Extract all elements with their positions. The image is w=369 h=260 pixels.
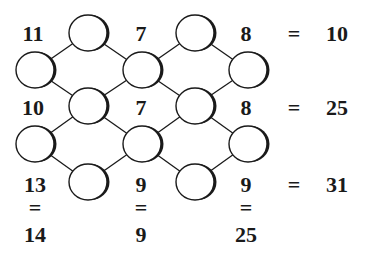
row2-mid-clue: 7 xyxy=(136,97,147,119)
answer-circle-r4c1[interactable] xyxy=(16,126,57,162)
row3-left-clue: 13 xyxy=(24,174,46,196)
row1-right-clue: 8 xyxy=(241,23,252,45)
row1-mid-clue: 7 xyxy=(136,23,147,45)
answer-circle-r3c1[interactable] xyxy=(69,88,110,124)
row2-left-clue: 10 xyxy=(22,97,44,119)
row3-right-clue: 9 xyxy=(241,174,252,196)
row3-equals: = xyxy=(288,174,301,196)
answer-circle-r4c2[interactable] xyxy=(123,126,164,162)
answer-circle-r4c3[interactable] xyxy=(229,126,270,162)
col1-equals: = xyxy=(29,197,42,219)
row1-equals: = xyxy=(288,23,301,45)
answer-circle-r5c1[interactable] xyxy=(69,164,110,200)
puzzle-grid xyxy=(0,0,369,260)
col2-sum: 9 xyxy=(136,224,147,246)
row3-mid-clue: 9 xyxy=(136,174,147,196)
answer-circle-r1c2[interactable] xyxy=(176,15,217,51)
answer-circle-r2c2[interactable] xyxy=(123,52,164,88)
answer-circle-r1c1[interactable] xyxy=(69,15,110,51)
row2-sum: 25 xyxy=(326,97,348,119)
col3-equals: = xyxy=(240,197,253,219)
answer-circle-r2c3[interactable] xyxy=(229,52,270,88)
col1-sum: 14 xyxy=(24,224,46,246)
col3-sum: 25 xyxy=(235,224,257,246)
row1-left-clue: 11 xyxy=(23,23,44,45)
answer-circle-r5c2[interactable] xyxy=(176,164,217,200)
col2-equals: = xyxy=(135,197,148,219)
row2-right-clue: 8 xyxy=(241,97,252,119)
row1-sum: 10 xyxy=(326,23,348,45)
row2-equals: = xyxy=(288,97,301,119)
answer-circle-r3c2[interactable] xyxy=(176,88,217,124)
row3-sum: 31 xyxy=(326,174,348,196)
answer-circle-r2c1[interactable] xyxy=(16,52,57,88)
